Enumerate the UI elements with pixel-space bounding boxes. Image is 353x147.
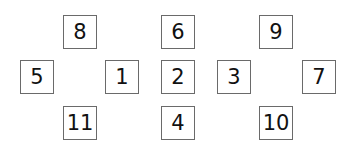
- number-box-6: 6: [161, 15, 195, 49]
- number-box-4: 4: [161, 106, 195, 140]
- number-box-7: 7: [302, 60, 336, 94]
- number-box-8: 8: [63, 15, 97, 49]
- number-box-2: 2: [161, 60, 195, 94]
- number-box-5: 5: [20, 60, 54, 94]
- number-box-11: 11: [63, 106, 97, 140]
- number-box-1: 1: [105, 60, 139, 94]
- number-box-10: 10: [259, 106, 293, 140]
- number-box-3: 3: [217, 60, 251, 94]
- number-box-9: 9: [259, 15, 293, 49]
